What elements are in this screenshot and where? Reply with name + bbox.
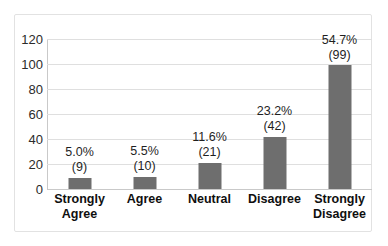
y-tick-20: 20 <box>9 158 43 171</box>
bar-label-neutral: 11.6% (21) <box>192 130 227 160</box>
bar-percent-agree: 5.5% <box>130 144 159 159</box>
category-line2-strongly-agree: Agree <box>62 207 97 221</box>
bar-label-agree: 5.5% (10) <box>130 144 159 174</box>
bar-agree[interactable] <box>133 177 156 190</box>
bar-count-neutral: (21) <box>192 145 227 160</box>
bar-chart: 120 100 80 60 40 20 0 5.0% (9) 5.5% (10) <box>14 14 372 232</box>
bar-count-strongly-agree: (9) <box>65 160 94 175</box>
bar-label-disagree: 23.2% (42) <box>257 104 292 134</box>
bar-disagree[interactable] <box>263 137 286 190</box>
bar-percent-strongly-agree: 5.0% <box>65 145 94 160</box>
bar-slot-strongly-disagree: 54.7% (99) <box>307 39 372 189</box>
y-axis-tick-labels: 120 100 80 60 40 20 0 <box>15 39 43 189</box>
bar-count-disagree: (42) <box>257 119 292 134</box>
bar-neutral[interactable] <box>198 163 221 189</box>
bar-label-strongly-agree: 5.0% (9) <box>65 145 94 175</box>
category-label-neutral: Neutral <box>177 192 242 207</box>
category-line1-strongly-disagree: Strongly <box>314 192 365 206</box>
plot-area: 5.0% (9) 5.5% (10) 11.6% (21) 23.2% (42) <box>47 39 372 189</box>
category-label-agree: Agree <box>112 192 177 207</box>
y-tick-80: 80 <box>9 83 43 96</box>
bar-strongly-disagree[interactable] <box>328 65 351 189</box>
bar-strongly-agree[interactable] <box>68 178 91 189</box>
x-axis-category-labels: Strongly Agree Agree Neutral Disagree St… <box>47 192 372 232</box>
category-line1-strongly-agree: Strongly <box>54 192 105 206</box>
bar-count-strongly-disagree: (99) <box>322 48 357 63</box>
category-line1-disagree: Disagree <box>248 192 301 206</box>
category-line1-neutral: Neutral <box>188 192 231 206</box>
y-tick-0: 0 <box>9 183 43 196</box>
y-tick-40: 40 <box>9 133 43 146</box>
bar-percent-neutral: 11.6% <box>192 130 227 145</box>
category-line1-agree: Agree <box>127 192 162 206</box>
category-label-disagree: Disagree <box>242 192 307 207</box>
y-tick-60: 60 <box>9 108 43 121</box>
category-label-strongly-disagree: Strongly Disagree <box>307 192 372 222</box>
bar-percent-strongly-disagree: 54.7% <box>322 33 357 48</box>
bar-percent-disagree: 23.2% <box>257 104 292 119</box>
bar-slot-neutral: 11.6% (21) <box>177 39 242 189</box>
category-label-strongly-agree: Strongly Agree <box>47 192 112 222</box>
y-tick-120: 120 <box>9 33 43 46</box>
y-tick-100: 100 <box>9 58 43 71</box>
bar-slot-disagree: 23.2% (42) <box>242 39 307 189</box>
bar-label-strongly-disagree: 54.7% (99) <box>322 33 357 63</box>
bar-slot-agree: 5.5% (10) <box>112 39 177 189</box>
gridline-0 <box>47 189 372 190</box>
bar-slot-strongly-agree: 5.0% (9) <box>47 39 112 189</box>
bar-count-agree: (10) <box>130 159 159 174</box>
category-line2-strongly-disagree: Disagree <box>313 207 366 221</box>
